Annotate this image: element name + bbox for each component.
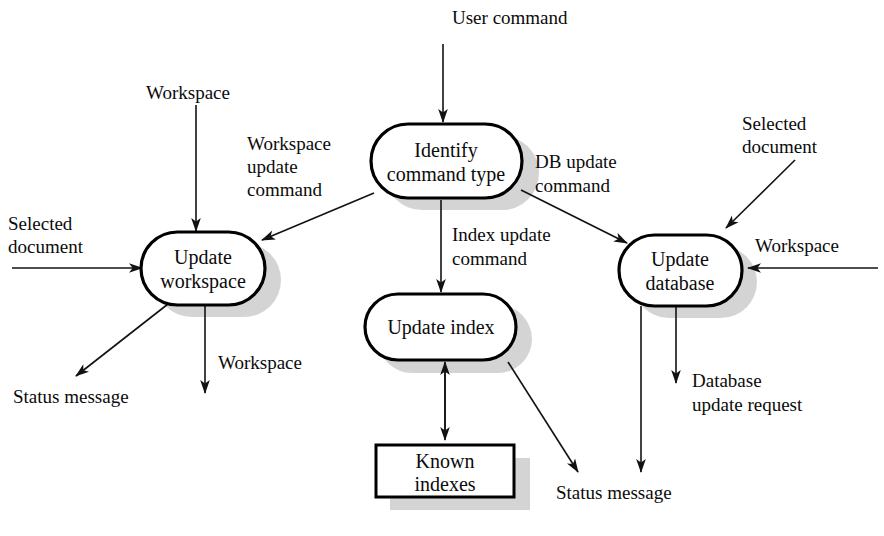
flow-label-workspace-out: Workspace [218,352,302,373]
flow-label-database-update-request-1: Database [692,370,762,391]
diagram-canvas: Update workspace Identify command type U… [0,0,884,536]
flow-label-db-update-command-1: DB update [535,151,617,172]
flow-label-status-message-center: Status message [556,482,672,503]
flow-label-database-update-request-2: update request [692,394,803,415]
flow-line-workspace-update-command [262,193,374,240]
flow-label-workspace-update-command-2: update [247,156,298,177]
flow-label-workspace-update-command-1: Workspace [247,133,331,154]
flow-label-workspace-in-right: Workspace [755,235,839,256]
process-update-database-shape[interactable] [619,235,742,306]
flow-label-workspace-in-left: Workspace [146,82,230,103]
process-identify-command-type-shape[interactable] [371,124,522,198]
process-identify-command-type-label-2: command type [387,163,505,186]
process-update-database-label-2: database [646,272,715,294]
process-update-database[interactable]: Update database [619,235,742,306]
flow-label-db-update-command-2: command [535,175,610,196]
process-update-workspace-label-2: workspace [160,270,246,293]
flow-line-status-message-left [76,304,168,376]
flow-label-status-message-left: Status message [13,386,129,407]
process-identify-command-type[interactable]: Identify command type [371,124,522,198]
store-known-indexes-label-2: indexes [414,473,475,495]
process-update-index-label: Update index [387,316,494,339]
store-known-indexes[interactable]: Known indexes [376,445,514,497]
process-update-workspace[interactable]: Update workspace [141,232,265,305]
flow-label-user-command: User command [452,7,568,28]
flow-label-selected-document-right-2: document [742,136,818,157]
flow-label-index-update-command-1: Index update [452,224,551,245]
flow-line-status-message-center [508,362,578,472]
process-update-workspace-shape[interactable] [141,232,265,305]
process-update-index[interactable]: Update index [365,294,516,360]
flow-label-index-update-command-2: command [452,248,527,269]
flow-label-selected-document-left-2: document [8,236,84,257]
data-flow-diagram: Update workspace Identify command type U… [0,0,884,536]
flow-label-selected-document-left-1: Selected [8,213,73,234]
process-update-workspace-label-1: Update [174,246,232,269]
process-update-database-label-1: Update [651,248,709,271]
process-identify-command-type-label-1: Identify [414,139,477,162]
flow-label-workspace-update-command-3: command [247,179,322,200]
store-known-indexes-label-1: Known [416,450,475,472]
flow-label-selected-document-right-1: Selected [742,113,807,134]
flow-line-selected-document-right [726,160,795,228]
